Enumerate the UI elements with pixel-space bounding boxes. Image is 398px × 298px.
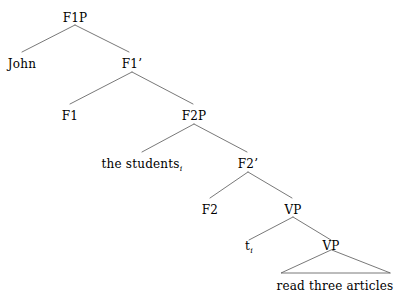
node-f2: F2 (202, 204, 218, 216)
node-f1: F1 (62, 110, 78, 122)
node-f1-bar: F1’ (122, 58, 142, 70)
branch-f2p-to-the-students (142, 124, 194, 152)
node-the-students: the studentsi (102, 158, 183, 170)
branch-vp-upper-to-vp-lower (293, 217, 331, 240)
branch-f1bar-to-f2p (132, 72, 193, 104)
branch-f1p-to-john (22, 25, 75, 52)
terminal-triangle (281, 250, 390, 273)
node-f2-bar: F2’ (238, 158, 258, 170)
node-vp-lower: VP (322, 240, 339, 252)
branch-f2bar-to-f2 (210, 172, 248, 198)
branch-f2bar-to-vp-upper (248, 172, 292, 198)
node-f2p: F2P (182, 110, 207, 122)
branch-f2p-to-f2bar (194, 124, 247, 152)
node-trace: ti (245, 240, 253, 252)
branch-f1bar-to-f1 (70, 72, 132, 104)
node-john: John (8, 58, 36, 70)
node-the-students-index: i (180, 164, 183, 173)
node-terminal-phrase: read three articles (277, 280, 394, 292)
tree-branch-lines (0, 0, 398, 298)
node-the-students-label: the students (102, 157, 180, 171)
node-vp-upper: VP (284, 204, 301, 216)
branch-f1p-to-f1bar (75, 25, 129, 52)
branch-vp-upper-to-trace (249, 217, 293, 240)
node-trace-index: i (250, 246, 253, 255)
syntax-tree-figure: F1P John F1’ F1 F2P the studentsi F2’ F2… (0, 0, 398, 298)
node-f1p: F1P (63, 12, 88, 24)
